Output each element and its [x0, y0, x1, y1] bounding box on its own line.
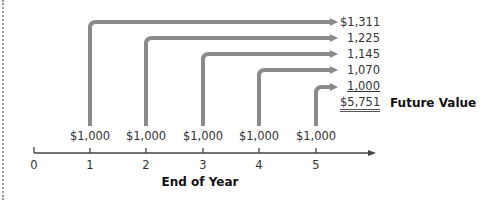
future-value-year-1: $1,311 — [340, 15, 380, 29]
compounding-arrow-year-2 — [146, 38, 334, 126]
year-label-1: 1 — [80, 158, 100, 172]
future-value-total: $5,751 — [340, 95, 380, 109]
future-value-year-2: 1,225 — [340, 31, 380, 45]
compounding-arrow-year-5 — [316, 87, 334, 126]
payment-year-2: $1,000 — [116, 129, 176, 143]
axis-title: End of Year — [150, 175, 250, 189]
future-value-label: Future Value — [390, 96, 476, 110]
future-value-year-3: 1,145 — [340, 47, 380, 61]
timeline-axis — [34, 147, 374, 153]
future-value-year-4: 1,070 — [340, 63, 380, 77]
compounding-arrow-year-4 — [259, 70, 334, 126]
year-label-0: 0 — [24, 158, 44, 172]
future-value-total-text: $5,751 — [340, 95, 380, 112]
payment-year-5: $1,000 — [286, 129, 346, 143]
year-label-5: 5 — [306, 158, 326, 172]
payment-year-4: $1,000 — [229, 129, 289, 143]
payment-year-1: $1,000 — [60, 129, 120, 143]
year-label-3: 3 — [193, 158, 213, 172]
future-value-year-5-text: 1,000 — [347, 79, 380, 93]
future-value-year-5: 1,000 — [340, 79, 380, 93]
payment-year-3: $1,000 — [173, 129, 233, 143]
year-label-4: 4 — [249, 158, 269, 172]
year-label-2: 2 — [136, 158, 156, 172]
